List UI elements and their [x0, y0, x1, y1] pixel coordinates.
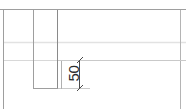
dimension-value-label: 50	[66, 56, 81, 92]
drawing-vector-layer	[0, 0, 186, 109]
faint-construction-lines	[3, 43, 186, 61]
technical-drawing-canvas: 50	[0, 0, 186, 109]
main-outline	[0, 10, 186, 110]
